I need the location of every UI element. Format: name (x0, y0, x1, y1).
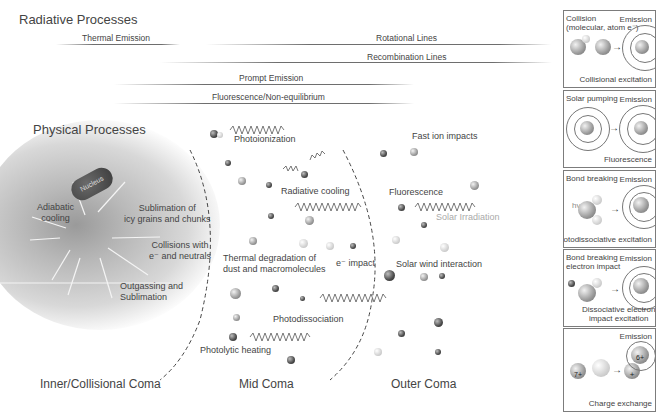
electron-icon (268, 213, 274, 219)
fluorescence-label: Fluorescence (389, 187, 443, 197)
panel-2-top-label: Solar pumping (566, 94, 618, 103)
panel-3-top-label: Bond breaking (566, 174, 618, 183)
molecule-icon (305, 216, 314, 225)
molecule-icon (299, 239, 308, 248)
thermal-degradation-label: Thermal degradation of dust and macromol… (223, 253, 326, 275)
electron-icon (300, 296, 305, 301)
molecule-icon (301, 171, 308, 178)
molecule-icon (420, 273, 428, 281)
photoionization-label: Photoionization (234, 134, 296, 144)
inner-coma-title: Inner/Collisional Coma (40, 377, 161, 391)
molecule-icon (392, 236, 400, 244)
molecule-icon (434, 318, 443, 327)
fast-ion-impacts-label: Fast ion impacts (412, 131, 478, 141)
panel-fluorescence: Solar pumping Emission → Fluorescence (563, 90, 656, 168)
molecule-icon (398, 330, 405, 337)
radiative-cooling-label: Radiative cooling (281, 186, 350, 196)
panel-collisional-excitation: Collision (molecular, atom e⁻) Emission … (563, 10, 656, 88)
molecule-icon (440, 243, 449, 252)
mid-coma-title: Mid Coma (239, 377, 294, 391)
ion-7-label: 7+ (574, 371, 582, 378)
panel-2-bottom-label: Fluorescence (604, 155, 652, 164)
plus-label: + (630, 370, 635, 379)
molecule-icon (326, 242, 334, 250)
molecule-icon (398, 204, 405, 211)
molecule-icon (410, 148, 418, 156)
electron-icon (266, 182, 272, 188)
coma-boundaries (0, 0, 560, 418)
panel-1-bottom-label: Collisional excitation (580, 75, 652, 84)
panel-photodissociative-excitation: Bond breaking Emission hv → Photodissoci… (563, 170, 656, 248)
panel-dissociative-electron-impact: Bond breaking electron impact Emission →… (563, 249, 656, 327)
electron-icon (225, 160, 231, 166)
molecule-icon (287, 356, 295, 364)
panel-5-bottom-label: Charge exchange (589, 399, 652, 408)
electron-icon (421, 222, 427, 228)
photodissociation-label: Photodissociation (273, 314, 344, 324)
solar-wind-interaction-label: Solar wind interaction (396, 259, 482, 269)
molecule-icon (374, 348, 382, 356)
panel-4-bottom-label: Dissociative electron impact excitation (582, 305, 655, 323)
electron-icon (439, 273, 445, 279)
electron-icon (233, 314, 240, 321)
panel-4-emission-label: Emission (620, 254, 652, 263)
molecule-icon (272, 285, 279, 292)
molecule-icon (238, 177, 246, 185)
panel-1-emission-label: Emission (620, 15, 652, 24)
molecule-icon (229, 333, 237, 341)
ion-6-label: 6+ (636, 354, 644, 361)
panel-2-emission-label: Emission (620, 95, 652, 104)
panel-5-emission-label: Emission (620, 332, 652, 341)
molecule-icon (249, 237, 257, 245)
solar-irradiation-label: Solar Irradiation (436, 212, 500, 222)
panel-3-bottom-label: Photodissociative excitation (563, 235, 652, 244)
molecule-icon (384, 270, 395, 281)
electron-icon (435, 349, 441, 355)
outer-coma-title: Outer Coma (391, 377, 456, 391)
panel-4-top-label: Bond breaking electron impact (566, 253, 620, 271)
panel-charge-exchange: Emission 7+ → + 6+ Charge exchange (563, 328, 656, 412)
e-impact-label: e⁻ impact (336, 258, 375, 268)
photolytic-heating-label: Photolytic heating (200, 345, 271, 355)
electron-icon (380, 150, 387, 157)
electron-icon (350, 243, 356, 249)
molecule-icon (217, 132, 223, 138)
panel-3-emission-label: Emission (620, 175, 652, 184)
molecule-icon (470, 181, 479, 190)
molecule-icon (230, 288, 241, 299)
